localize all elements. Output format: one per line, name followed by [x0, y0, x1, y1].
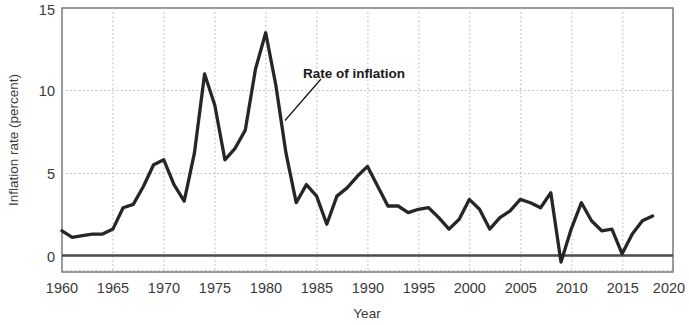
x-tick-2015: 2015 — [607, 280, 639, 296]
x-tick-2000: 2000 — [454, 280, 486, 296]
x-tick-2020: 2020 — [653, 280, 685, 296]
x-tick-1965: 1965 — [97, 280, 129, 296]
y-axis-title: Inflation rate (percent) — [6, 74, 21, 206]
y-tick-5: 5 — [47, 166, 55, 182]
annotation-leader-line — [285, 79, 321, 121]
annotation-rate-of-inflation: Rate of inflation — [303, 66, 405, 81]
y-axis-tick-labels: 0 5 10 15 — [39, 2, 55, 265]
y-tick-0: 0 — [47, 249, 55, 265]
x-tick-2005: 2005 — [505, 280, 537, 296]
x-axis-title: Year — [353, 306, 381, 321]
y-tick-15: 15 — [39, 2, 55, 18]
x-tick-2010: 2010 — [556, 280, 588, 296]
vertical-gridlines — [113, 8, 623, 272]
x-tick-1975: 1975 — [199, 280, 231, 296]
chart-canvas: Rate of inflation 0 5 10 15 1960 1965 19… — [0, 0, 689, 325]
inflation-rate-chart: Rate of inflation 0 5 10 15 1960 1965 19… — [0, 0, 689, 325]
x-tick-1970: 1970 — [148, 280, 180, 296]
x-tick-1990: 1990 — [352, 280, 384, 296]
x-axis-tick-labels: 1960 1965 1970 1975 1980 1985 1990 1995 … — [46, 280, 685, 296]
plot-area-frame — [62, 8, 673, 272]
x-tick-1980: 1980 — [250, 280, 282, 296]
x-tick-1960: 1960 — [46, 280, 78, 296]
x-tick-1985: 1985 — [301, 280, 333, 296]
x-tick-1995: 1995 — [403, 280, 435, 296]
y-tick-10: 10 — [39, 83, 55, 99]
